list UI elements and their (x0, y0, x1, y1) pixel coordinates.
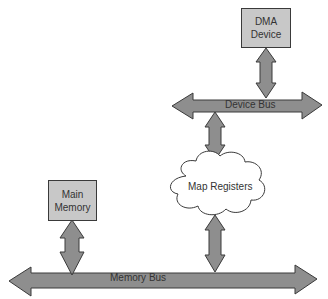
main-memory-label-line2: Memory (54, 201, 90, 214)
dma-device-box: DMA Device (241, 8, 291, 48)
map-registers-label: Map Registers (188, 181, 252, 192)
dma-to-device-bus-arrow (256, 48, 276, 98)
main-memory-box: Main Memory (48, 180, 97, 221)
map-registers-to-memory-bus-arrow (205, 215, 225, 272)
main-memory-to-memory-bus-arrow (60, 220, 84, 275)
dma-device-label-line2: Device (251, 28, 282, 41)
device-bus-label: Device Bus (225, 99, 276, 110)
memory-bus-label: Memory Bus (110, 272, 166, 283)
dma-device-label-line1: DMA (255, 15, 277, 28)
main-memory-label-line1: Main (62, 188, 84, 201)
